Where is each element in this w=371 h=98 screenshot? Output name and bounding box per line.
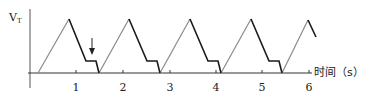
x-axis-label: 时间（s） (314, 67, 364, 78)
x-tick-label: 5 (259, 82, 266, 93)
y-axis-label: VT (9, 12, 22, 25)
x-tick-label: 1 (73, 82, 80, 93)
rising-series (38, 19, 308, 73)
chart-canvas (0, 0, 371, 98)
falling-series (69, 19, 316, 73)
x-tick-label: 4 (213, 82, 220, 93)
x-tick-label: 2 (120, 82, 127, 93)
x-tick-label: 6 (306, 82, 313, 93)
x-tick-label: 3 (167, 82, 174, 93)
arrow-annotation-icon (89, 38, 95, 55)
